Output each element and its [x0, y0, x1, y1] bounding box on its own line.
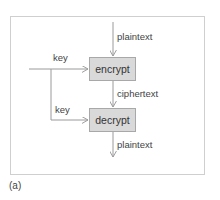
decrypt-node: decrypt — [89, 108, 136, 132]
encrypt-node: encrypt — [89, 57, 136, 81]
plaintext-out-label: plaintext — [117, 139, 152, 150]
key-decrypt-label: key — [55, 104, 70, 115]
encrypt-label: encrypt — [95, 63, 129, 75]
ciphertext-label: ciphertext — [117, 88, 158, 99]
plaintext-in-label: plaintext — [117, 31, 152, 42]
decrypt-label: decrypt — [95, 114, 129, 126]
figure-caption: (a) — [9, 180, 21, 191]
diagram-wires — [0, 0, 220, 200]
key-encrypt-label: key — [53, 52, 68, 63]
